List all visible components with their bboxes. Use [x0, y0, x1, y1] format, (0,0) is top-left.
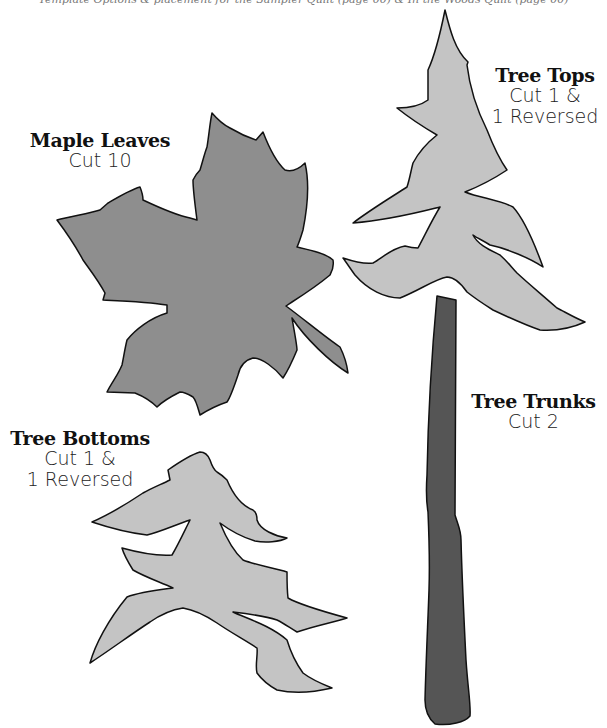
label-title: Maple Leaves — [10, 131, 190, 150]
label-tree-bottoms: Tree Bottoms Cut 1 & 1 Reversed — [0, 429, 160, 490]
label-cut-line: 1 Reversed — [0, 469, 160, 490]
label-cut-line: Cut 1 & — [483, 85, 607, 106]
label-title: Tree Bottoms — [0, 429, 160, 448]
label-cut-line: 1 Reversed — [483, 106, 607, 127]
tree-top-shape — [343, 10, 585, 330]
label-cut-line: Cut 2 — [460, 411, 607, 432]
label-title: Tree Trunks — [460, 392, 607, 411]
tree-trunk-shape — [425, 296, 470, 725]
label-maple-leaves: Maple Leaves Cut 10 — [10, 131, 190, 171]
label-title: Tree Tops — [483, 66, 607, 85]
label-cut-line: Cut 1 & — [0, 448, 160, 469]
label-tree-trunks: Tree Trunks Cut 2 — [460, 392, 607, 432]
label-tree-tops: Tree Tops Cut 1 & 1 Reversed — [483, 66, 607, 127]
label-cut-line: Cut 10 — [10, 150, 190, 171]
